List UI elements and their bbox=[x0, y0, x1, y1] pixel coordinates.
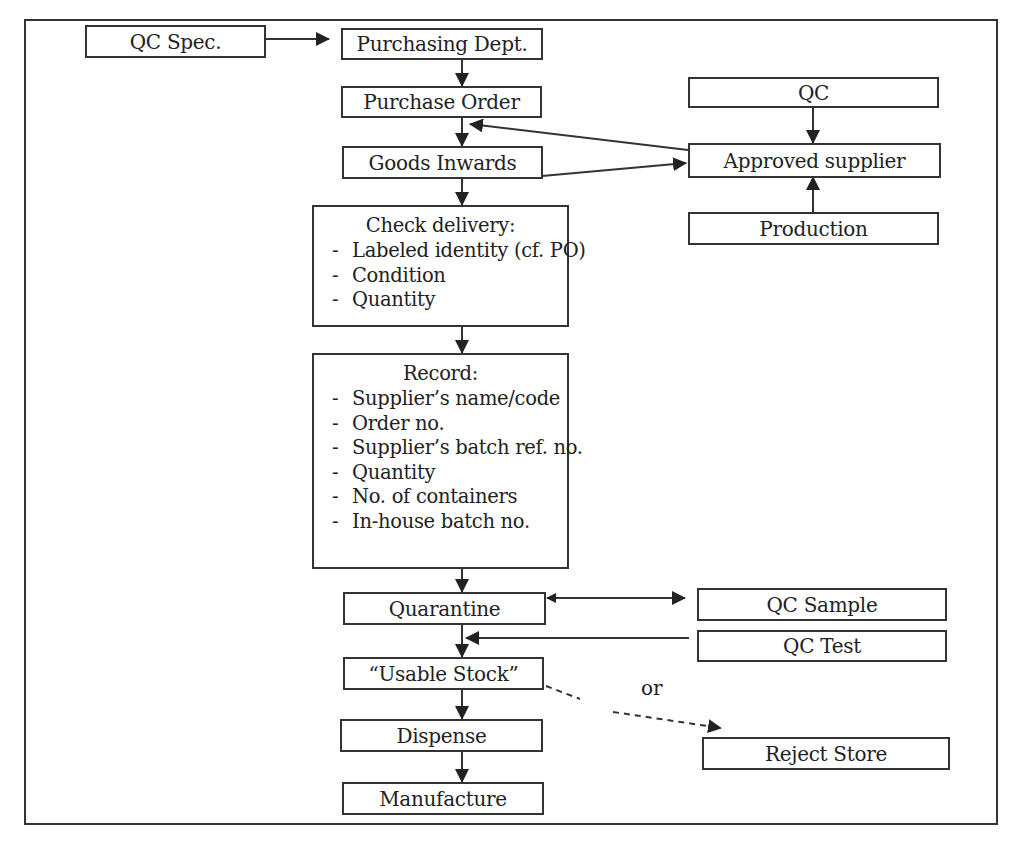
node-manufacture: Manufacture bbox=[342, 782, 544, 815]
bullet-dash: - bbox=[332, 412, 352, 437]
bullet-dash: - bbox=[332, 461, 352, 486]
node-label: QC Spec. bbox=[130, 32, 222, 52]
bullet-dash: - bbox=[332, 510, 352, 535]
node-label: Dispense bbox=[397, 726, 487, 746]
node-check-delivery: Check delivery: -Labeled identity (cf. P… bbox=[312, 205, 569, 327]
node-title: Check delivery: bbox=[314, 213, 567, 239]
node-approved-supplier: Approved supplier bbox=[688, 143, 941, 178]
node-qc-spec: QC Spec. bbox=[85, 25, 266, 58]
node-dispense: Dispense bbox=[340, 719, 543, 752]
bullet-dash: - bbox=[332, 239, 352, 264]
node-label: QC Test bbox=[783, 636, 861, 656]
node-goods-inwards: Goods Inwards bbox=[342, 146, 543, 179]
node-quarantine: Quarantine bbox=[343, 592, 546, 625]
node-production: Production bbox=[688, 212, 939, 245]
list-item-text: Supplier’s name/code bbox=[352, 387, 560, 410]
node-qc-test: QC Test bbox=[697, 630, 947, 662]
bullet-dash: - bbox=[332, 485, 352, 510]
node-reject-store: Reject Store bbox=[702, 737, 950, 770]
list-item: -In-house batch no. bbox=[314, 510, 567, 535]
node-label: Purchasing Dept. bbox=[357, 34, 528, 54]
node-label: Goods Inwards bbox=[368, 153, 516, 173]
node-record: Record: -Supplier’s name/code -Order no.… bbox=[312, 353, 569, 569]
list-item: -Supplier’s batch ref. no. bbox=[314, 436, 567, 461]
node-purchase-order: Purchase Order bbox=[341, 86, 542, 118]
list-item: -Condition bbox=[314, 264, 567, 289]
list-item: -Supplier’s name/code bbox=[314, 387, 567, 412]
node-label: Reject Store bbox=[765, 744, 887, 764]
list-item: -Labeled identity (cf. PO) bbox=[314, 239, 567, 264]
list-item-text: Condition bbox=[352, 264, 446, 287]
or-label: or bbox=[641, 676, 663, 700]
bullet-dash: - bbox=[332, 436, 352, 461]
node-title: Record: bbox=[314, 361, 567, 387]
node-label: QC Sample bbox=[767, 595, 878, 615]
node-usable-stock: “Usable Stock” bbox=[343, 657, 544, 690]
node-label: Purchase Order bbox=[363, 92, 519, 112]
list-item-text: Labeled identity (cf. PO) bbox=[352, 239, 586, 262]
list-item: -Quantity bbox=[314, 461, 567, 486]
node-label: Manufacture bbox=[379, 789, 507, 809]
list-item-text: Supplier’s batch ref. no. bbox=[352, 436, 583, 459]
node-label: Production bbox=[759, 219, 867, 239]
list-item: -No. of containers bbox=[314, 485, 567, 510]
list-item-text: Order no. bbox=[352, 412, 444, 435]
bullet-dash: - bbox=[332, 288, 352, 313]
list-item: -Quantity bbox=[314, 288, 567, 313]
node-qc-sample: QC Sample bbox=[697, 588, 947, 621]
node-purchasing-dept: Purchasing Dept. bbox=[341, 28, 543, 60]
bullet-dash: - bbox=[332, 387, 352, 412]
list-item-text: No. of containers bbox=[352, 485, 517, 508]
node-label: Approved supplier bbox=[724, 151, 906, 171]
list-item-text: In-house batch no. bbox=[352, 510, 530, 533]
node-label: “Usable Stock” bbox=[369, 664, 519, 684]
node-label: QC bbox=[798, 83, 829, 103]
list-item: -Order no. bbox=[314, 412, 567, 437]
node-label: Quarantine bbox=[389, 599, 501, 619]
bullet-dash: - bbox=[332, 264, 352, 289]
list-item-text: Quantity bbox=[352, 461, 435, 484]
node-qc: QC bbox=[688, 77, 939, 108]
list-item-text: Quantity bbox=[352, 288, 435, 311]
